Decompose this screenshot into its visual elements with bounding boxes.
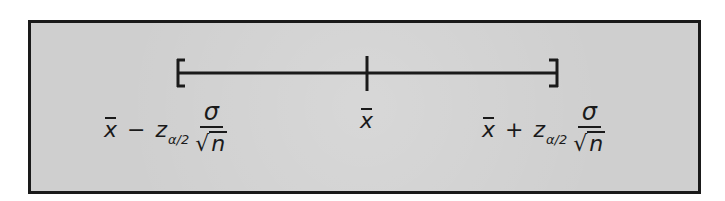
sigma-numerator: σ	[578, 100, 601, 128]
sample-mean-symbol: x	[360, 110, 373, 132]
n-symbol: n	[587, 131, 605, 155]
plus-operator: +	[505, 119, 523, 141]
sigma-numerator: σ	[200, 100, 223, 128]
lower-bound-label: x − z α/2 σ √n	[104, 102, 227, 157]
sample-mean-symbol: x	[104, 119, 117, 141]
minus-operator: −	[127, 119, 145, 141]
interval-graphic	[0, 0, 725, 201]
z-subscript: α/2	[546, 133, 567, 146]
root-n-denominator: √n	[195, 128, 227, 155]
upper-bound-label: x + z α/2 σ √n	[482, 102, 605, 157]
z-subscript: α/2	[168, 133, 189, 146]
z-symbol: z	[533, 119, 545, 141]
sigma-over-root-n: σ √n	[195, 100, 227, 155]
sqrt-icon: √	[195, 133, 209, 155]
root-n-denominator: √n	[573, 128, 605, 155]
center-label: x	[360, 110, 373, 132]
sample-mean-symbol: x	[482, 119, 495, 141]
z-symbol: z	[155, 119, 167, 141]
sqrt-icon: √	[573, 133, 587, 155]
sigma-over-root-n: σ √n	[573, 100, 605, 155]
n-symbol: n	[209, 131, 227, 155]
